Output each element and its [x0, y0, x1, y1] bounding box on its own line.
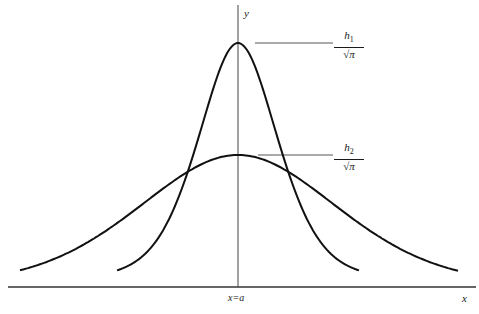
peak-label-h2: h2 √π [334, 141, 364, 173]
x-axis-label: x [462, 293, 467, 304]
pi-symbol: π [349, 160, 355, 172]
diagram-canvas [0, 0, 479, 314]
peak-label-h1-denominator: √π [334, 48, 364, 61]
h1-subscript: 1 [350, 35, 354, 44]
peak-label-h1-numerator: h1 [334, 29, 364, 48]
center-label: x=a [228, 293, 244, 303]
wide-short-curve [20, 155, 458, 271]
peak-label-h2-denominator: √π [334, 160, 364, 173]
h2-subscript: 2 [350, 147, 354, 156]
y-axis-label: y [244, 8, 249, 19]
peak-label-h1: h1 √π [334, 29, 364, 61]
pi-symbol: π [349, 48, 355, 60]
peak-label-h2-numerator: h2 [334, 141, 364, 160]
